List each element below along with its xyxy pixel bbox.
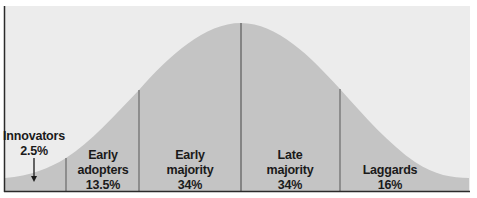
label-early-majority: Early majority 34% [150,148,230,193]
late-majority-line1: Late [250,148,330,163]
label-innovators: Innovators 2.5% [3,129,65,159]
late-majority-line2: majority [250,163,330,178]
label-laggards: Laggards 16% [350,163,430,193]
early-adopters-percent: 13.5% [68,178,138,193]
adoption-bell-curve-diagram: Innovators 2.5% Early adopters 13.5% Ear… [0,0,477,198]
early-majority-percent: 34% [150,178,230,193]
early-adopters-line2: adopters [68,163,138,178]
laggards-percent: 16% [350,178,430,193]
early-majority-line2: majority [150,163,230,178]
late-majority-percent: 34% [250,178,330,193]
early-adopters-line1: Early [68,148,138,163]
innovators-name: Innovators [3,129,65,144]
label-late-majority: Late majority 34% [250,148,330,193]
label-early-adopters: Early adopters 13.5% [68,148,138,193]
early-majority-line1: Early [150,148,230,163]
innovators-percent: 2.5% [3,144,65,159]
laggards-name: Laggards [350,163,430,178]
